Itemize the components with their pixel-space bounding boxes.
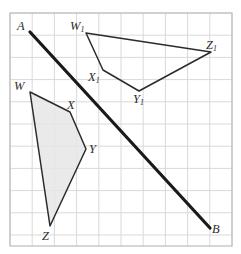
geometry-figure: WXYZW1X1Y1Z1AB xyxy=(0,0,241,254)
vertex-label-w1: W1 xyxy=(70,20,84,33)
geometry-canvas xyxy=(0,0,241,254)
vertex-label-w: W xyxy=(14,80,24,93)
quadrilateral-w1x1y1z1 xyxy=(86,33,211,91)
label-B: B xyxy=(212,223,220,236)
vertex-label-y: Y xyxy=(89,143,96,156)
vertex-label-z1: Z1 xyxy=(206,39,217,52)
vertex-label-z: Z xyxy=(42,230,49,243)
vertex-label-x: X xyxy=(67,99,75,112)
vertex-label-y1: Y1 xyxy=(133,93,144,106)
vertex-label-x1: X1 xyxy=(88,71,100,84)
quadrilateral-wxyz xyxy=(30,92,86,226)
label-A: A xyxy=(17,20,25,33)
